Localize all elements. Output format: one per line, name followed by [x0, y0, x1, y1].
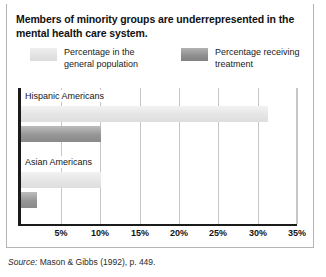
- source-text: Mason & Gibbs (1992), p. 449.: [40, 257, 156, 267]
- source-citation: Source: Mason & Gibbs (1992), p. 449.: [8, 257, 155, 267]
- bar-asian-receiving-treatment: [21, 192, 37, 208]
- chart-legend: Percentage in the general population Per…: [16, 47, 308, 75]
- x-tick-label-5: 5%: [54, 228, 67, 238]
- legend-swatch-icon-receiving-treatment: [181, 48, 208, 61]
- bar-asian-general-population: [21, 172, 101, 188]
- x-tick-label-15: 15%: [131, 228, 149, 238]
- figure-panel: Members of minority groups are underrepr…: [6, 4, 314, 248]
- bar-hispanic-general-population: [21, 106, 268, 122]
- bar-group-asian-americans: Asian Americans: [21, 156, 308, 222]
- legend-item-general-population: Percentage in the general population: [30, 47, 164, 70]
- legend-swatch-icon-general-population: [30, 48, 57, 61]
- x-tick-label-35: 35%: [288, 228, 306, 238]
- x-tick-label-10: 10%: [91, 228, 109, 238]
- legend-item-receiving-treatment: Percentage receiving treatment: [181, 47, 308, 70]
- bar-group-hispanic-americans: Hispanic Americans: [21, 90, 308, 156]
- source-prefix: Source:: [8, 257, 37, 267]
- legend-label-receiving-treatment: Percentage receiving treatment: [215, 47, 308, 70]
- x-axis-tick-labels: 5% 10% 15% 20% 25% 30% 35%: [18, 228, 308, 242]
- category-label-hispanic-americans: Hispanic Americans: [25, 90, 107, 102]
- bar-hispanic-receiving-treatment: [21, 126, 101, 142]
- x-tick-label-25: 25%: [209, 228, 227, 238]
- x-tick-label-20: 20%: [170, 228, 188, 238]
- category-label-asian-americans: Asian Americans: [25, 156, 95, 168]
- x-axis-line: [18, 224, 297, 226]
- legend-label-general-population: Percentage in the general population: [64, 47, 164, 70]
- x-tick-label-30: 30%: [249, 228, 267, 238]
- page-title: Members of minority groups are underrepr…: [16, 13, 306, 40]
- plot-area: Hispanic Americans Asian Americans: [18, 88, 308, 224]
